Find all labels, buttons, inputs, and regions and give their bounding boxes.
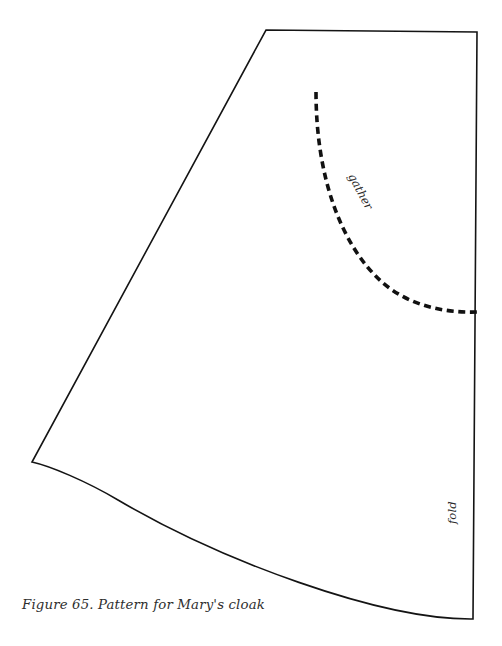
pattern-outline-path (32, 30, 477, 619)
gather-label: gather (345, 171, 376, 213)
fold-label: fold (445, 501, 459, 525)
figure-caption: Figure 65. Pattern for Mary's cloak (22, 597, 265, 612)
figure-container: gather fold Figure 65. Pattern for Mary'… (0, 0, 502, 646)
cloak-pattern-drawing: gather fold (0, 0, 502, 646)
gather-dashed-arc (316, 92, 477, 312)
